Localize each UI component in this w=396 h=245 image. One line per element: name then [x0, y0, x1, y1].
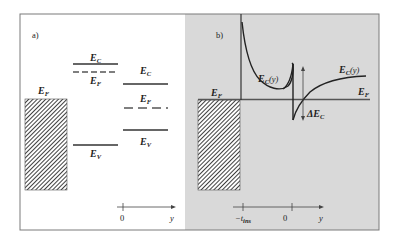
metal-block-hatched: [25, 99, 67, 190]
panel-b-origin-label: 0: [283, 213, 287, 223]
panel-a-label: a): [32, 30, 39, 40]
band-diagram-figure: a) EF EC EF EV EC EF EV 0 y b) EF: [0, 0, 396, 245]
panel-b-label: b): [216, 30, 223, 40]
panel-a-axis-label: y: [169, 213, 174, 223]
panel-a-origin-label: 0: [120, 213, 124, 223]
panel-b-axis-label: y: [318, 213, 323, 223]
metal-block-hatched-b: [198, 100, 240, 190]
